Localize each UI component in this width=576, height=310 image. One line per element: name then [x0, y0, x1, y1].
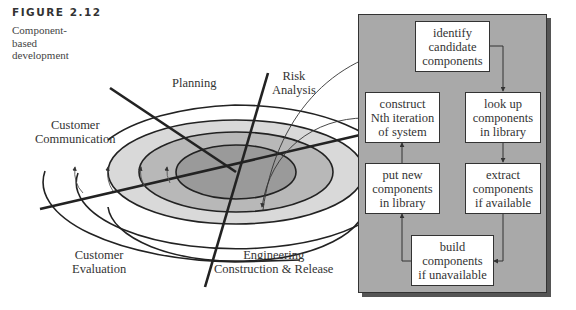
- box-line: candidate: [416, 40, 489, 54]
- box-line: of system: [366, 125, 439, 139]
- box-line: Nth iteration: [366, 111, 439, 125]
- box-line: components: [416, 54, 489, 68]
- arrow-identify-to-lookup: [489, 46, 503, 91]
- arrow-extract-to-build: [494, 213, 503, 261]
- box-line: if unavailable: [412, 268, 493, 282]
- box-line: components: [466, 182, 540, 196]
- box-line: put new: [366, 168, 439, 182]
- box-line: build: [412, 240, 493, 254]
- box-extract-components: extract components if available: [465, 163, 541, 214]
- box-line: in library: [466, 125, 540, 139]
- box-line: components: [412, 254, 493, 268]
- box-line: look up: [466, 97, 540, 111]
- box-construct-nth-iteration: construct Nth iteration of system: [365, 92, 440, 143]
- box-line: identify: [416, 26, 489, 40]
- arrow-build-to-putnew: [402, 214, 411, 261]
- box-build-components: build components if unavailable: [411, 235, 494, 286]
- box-put-new-components: put new components in library: [365, 163, 440, 214]
- box-line: in library: [366, 196, 439, 210]
- box-identify-candidate-components: identify candidate components: [415, 21, 490, 72]
- box-line: extract: [466, 168, 540, 182]
- box-look-up-components: look up components in library: [465, 92, 541, 143]
- box-line: if available: [466, 196, 540, 210]
- box-line: components: [366, 182, 439, 196]
- box-line: components: [466, 111, 540, 125]
- box-line: construct: [366, 97, 439, 111]
